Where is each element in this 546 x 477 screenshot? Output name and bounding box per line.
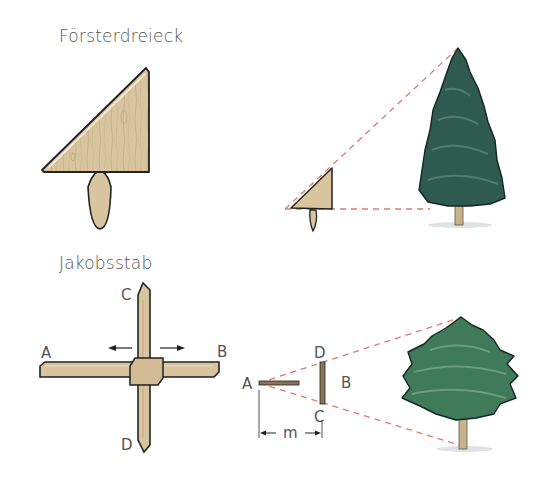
forester-triangle-large [42,68,149,229]
app-label-d: D [314,344,326,362]
label-b: B [217,343,227,361]
app-label-b: B [341,374,351,392]
diagram-canvas: A B C D A B C D m [0,0,546,477]
app-label-c: C [314,408,324,426]
label-m: m [283,424,298,442]
label-c: C [121,286,131,304]
handle [88,172,111,229]
label-d: D [121,436,133,454]
label-a: A [41,344,52,362]
jacobs-staff-application: A B C D m [242,317,518,452]
app-label-a: A [242,375,253,393]
pine-tree [402,317,518,420]
forester-triangle-application [285,48,505,231]
jacobs-staff-large: A B C D [40,283,227,454]
